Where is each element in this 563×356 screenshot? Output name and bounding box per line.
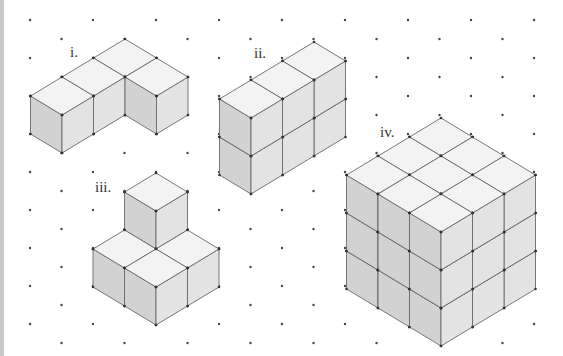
label-shape-iv: iv.: [380, 125, 394, 140]
label-shape-i: i.: [70, 45, 78, 60]
label-shape-iii: iii.: [95, 180, 111, 195]
shape-iv-3x3x3-cube: [0, 0, 563, 356]
diagram-canvas: i. ii. iii. iv.: [0, 0, 563, 356]
label-shape-ii: ii.: [254, 46, 266, 61]
